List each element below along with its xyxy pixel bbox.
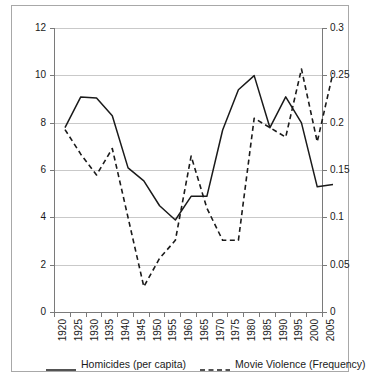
x-tick [227,313,228,317]
legend-dashed-line-icon [200,360,230,368]
x-tick [117,313,118,317]
axis-line-right [322,28,323,313]
y-tick-right [323,312,327,313]
x-tick-label: 1930 [90,319,100,341]
x-tick-label: 1995 [294,319,304,341]
x-tick [243,313,244,317]
gridline [54,265,323,266]
y-tick-right [323,170,327,171]
gridline [54,123,323,124]
gridline [54,75,323,76]
x-tick-label: 1980 [247,319,257,341]
y-tick-label-right: 0 [330,307,336,317]
x-tick-label: 1955 [168,319,178,341]
x-tick [164,313,165,317]
x-tick-label: 1925 [74,319,84,341]
y-tick-label-right: 0.05 [330,260,349,270]
x-tick-label: 2005 [326,319,336,341]
x-tick-label: 1935 [105,319,115,341]
y-tick-label-right: 0.2 [330,118,344,128]
x-tick [101,313,102,317]
y-tick-label-left: 8 [16,118,46,128]
legend-label: Homicides (per capita) [81,359,186,370]
axis-line-bottom [54,312,323,313]
y-tick-label-right: 0.1 [330,212,344,222]
axis-line-left [54,28,55,313]
x-tick [259,313,260,317]
x-tick-label: 2000 [310,319,320,341]
gridline [54,28,323,29]
x-tick [70,313,71,317]
legend-solid-line-icon [46,360,76,368]
x-tick [290,313,291,317]
x-tick [149,313,150,317]
x-tick-label: 1950 [153,319,163,341]
y-tick-label-left: 10 [16,70,46,80]
x-tick-label: 1990 [279,319,289,341]
y-tick-label-left: 6 [16,165,46,175]
chart-legend: Homicides (per capita)Movie Violence (Fr… [46,356,346,372]
x-tick [275,313,276,317]
x-tick [54,313,55,317]
x-tick-label: 1965 [200,319,210,341]
x-tick [86,313,87,317]
x-tick-label: 1920 [58,319,68,341]
x-tick-label: 1970 [216,319,226,341]
x-tick-label: 1945 [137,319,147,341]
y-tick-right [323,265,327,266]
y-tick-label-left: 0 [16,307,46,317]
gridline [54,217,323,218]
gridline [54,170,323,171]
y-tick-label-left: 2 [16,260,46,270]
x-tick-label: 1960 [184,319,194,341]
x-tick [196,313,197,317]
y-tick-right [323,217,327,218]
x-tick [180,313,181,317]
x-tick-label: 1940 [121,319,131,341]
y-tick-right [323,28,327,29]
y-tick-right [323,123,327,124]
y-tick-label-right: 0.15 [330,165,349,175]
x-tick-label: 1985 [263,319,273,341]
legend-label: Movie Violence (Frequency) [235,359,366,370]
x-tick [322,313,323,317]
x-tick-label: 1975 [231,319,241,341]
y-tick-right [323,75,327,76]
y-tick-label-right: 0.25 [330,70,349,80]
y-tick-label-left: 12 [16,23,46,33]
y-tick-label-right: 0.3 [330,23,344,33]
legend-entry: Homicides (per capita) [46,359,186,370]
y-tick-label-left: 4 [16,212,46,222]
x-tick [212,313,213,317]
x-tick [306,313,307,317]
x-tick [133,313,134,317]
chart-frame: 024681012 00.050.10.150.20.250.3 1920192… [11,5,349,372]
legend-entry: Movie Violence (Frequency) [200,359,366,370]
